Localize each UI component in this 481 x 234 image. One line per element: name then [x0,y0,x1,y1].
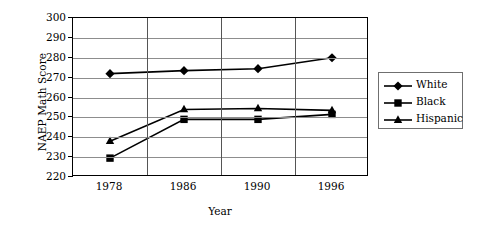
diamond-marker-icon [383,78,413,92]
data-point-white-1986 [179,66,188,75]
vertical-gridline [221,18,222,175]
horizontal-gridline [73,78,367,79]
legend-label: Black [413,96,446,107]
horizontal-gridline [73,58,367,59]
naep-math-score-line-chart: NAEP Math Score 300290280270260250240230… [0,0,481,234]
y-tick-label: 270 [38,72,66,82]
legend-item-hispanic[interactable]: Hispanic [383,110,461,127]
legend-label: White [413,79,447,90]
y-tick-label: 240 [38,131,66,141]
y-tick-label: 250 [38,111,66,121]
square-marker-icon [383,95,413,109]
y-tick-label: 290 [38,32,66,42]
legend-item-white[interactable]: White [383,76,461,93]
y-tick-label: 300 [38,12,66,22]
chart-legend: WhiteBlackHispanic [378,72,463,129]
x-tick-label: 1978 [72,180,146,192]
triangle-marker-icon [383,112,413,126]
vertical-gridline [147,18,148,175]
vertical-gridline [295,18,296,175]
horizontal-gridline [73,137,367,138]
data-point-hispanic-1990 [254,104,262,112]
data-point-white-1990 [253,64,262,73]
y-tick-label: 280 [38,52,66,62]
y-axis-tick-labels: 300290280270260250240230220 [36,0,66,234]
legend-item-black[interactable]: Black [383,93,461,110]
y-tick-label: 220 [38,171,66,181]
horizontal-gridline [73,38,367,39]
horizontal-gridline [73,157,367,158]
x-tick-label: 1996 [294,180,368,192]
x-axis-tick-labels: 1978198619901996 [72,180,368,196]
horizontal-gridline [73,117,367,118]
legend-label: Hispanic [413,113,463,124]
plot-area [72,17,368,176]
x-tick-label: 1986 [146,180,220,192]
y-tick-label: 230 [38,151,66,161]
horizontal-gridline [73,98,367,99]
x-axis-title: Year [72,205,368,217]
data-point-hispanic-1986 [180,105,188,113]
y-tick-label: 260 [38,92,66,102]
data-point-hispanic-1996 [328,106,336,114]
x-tick-label: 1990 [220,180,294,192]
